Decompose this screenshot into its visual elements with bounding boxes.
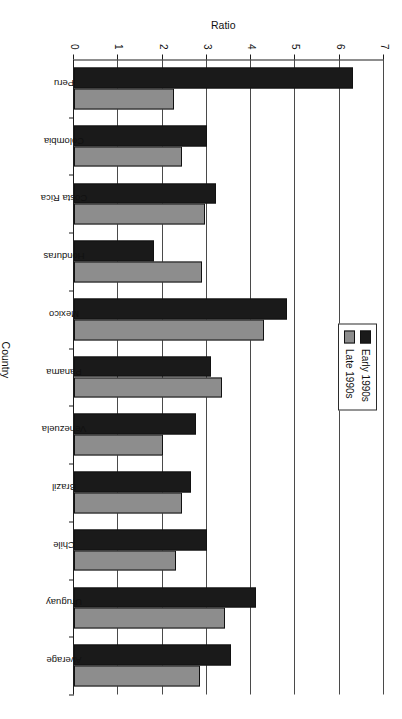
y-axis-tick-label: 4	[246, 19, 256, 49]
gridline	[383, 59, 384, 694]
y-axis-line	[74, 59, 384, 60]
y-axis-tick	[117, 54, 118, 59]
y-axis-tick-label: 3	[202, 19, 212, 49]
legend-item-early: Early 1990s	[360, 330, 371, 402]
y-axis-tick	[250, 54, 251, 59]
gray-swatch-icon	[344, 330, 355, 343]
bar-brazil-early	[74, 471, 191, 492]
x-axis-label-mexico: Mexico	[49, 308, 79, 319]
x-axis-tick	[69, 117, 74, 118]
bar-honduras-late	[74, 261, 202, 282]
x-axis-tick	[69, 348, 74, 349]
x-axis-tick	[69, 463, 74, 464]
black-swatch-icon	[360, 330, 371, 343]
y-axis-tick-label: 7	[379, 19, 389, 49]
x-axis-label-average: Average	[46, 654, 81, 665]
bar-average-early	[74, 644, 231, 665]
y-axis-tick	[206, 54, 207, 59]
bar-chile-late	[74, 550, 176, 571]
x-axis-tick	[69, 521, 74, 522]
gridline	[294, 59, 295, 694]
y-axis-tick	[73, 54, 74, 59]
bar-average-late	[74, 665, 200, 686]
x-axis-label-uruguay: Uruguay	[46, 596, 82, 607]
y-axis-title: Ratio	[211, 18, 236, 30]
bar-brazil-late	[74, 492, 183, 513]
x-axis-label-costa-rica: Costa Rica	[41, 192, 87, 203]
x-axis-tick	[69, 174, 74, 175]
bar-honduras-early	[74, 240, 154, 261]
rotated-figure: Country Ratio 01234567 PeruColombiaCosta…	[0, 0, 402, 719]
x-axis-tick	[69, 694, 74, 695]
x-axis-label-brazil: Brazil	[52, 481, 76, 492]
legend-label-late: Late 1990s	[344, 349, 355, 399]
y-axis-tick	[294, 54, 295, 59]
x-axis-tick	[69, 232, 74, 233]
x-axis-label-peru: Peru	[54, 77, 74, 88]
bar-peru-early	[74, 67, 353, 88]
x-axis-tick	[69, 405, 74, 406]
x-axis-tick	[69, 579, 74, 580]
bar-costa-rica-late	[74, 203, 205, 224]
bar-panama-early	[74, 356, 211, 377]
bar-peru-late	[74, 88, 174, 109]
y-axis-tick-label: 6	[335, 19, 345, 49]
y-axis-tick-label: 0	[69, 19, 79, 49]
legend-label-early: Early 1990s	[360, 349, 371, 402]
y-axis-tick-label: 5	[290, 19, 300, 49]
bar-venezuela-early	[74, 413, 196, 434]
x-axis-label-honduras: Honduras	[43, 250, 84, 261]
x-axis-label-panama: Panama	[46, 366, 81, 377]
bar-chile-early	[74, 529, 207, 550]
bar-panama-late	[74, 377, 222, 398]
bar-uruguay-late	[74, 607, 225, 628]
x-axis-title: Country	[0, 0, 12, 719]
y-axis-tick	[162, 54, 163, 59]
bar-uruguay-early	[74, 587, 256, 608]
bar-colombia-late	[74, 146, 183, 167]
x-axis-label-colombia: Colombia	[44, 135, 84, 146]
y-axis-tick	[339, 54, 340, 59]
bar-mexico-early	[74, 298, 287, 319]
x-axis-tick	[69, 290, 74, 291]
bar-mexico-late	[74, 319, 264, 340]
x-axis-tick	[69, 636, 74, 637]
bar-colombia-early	[74, 125, 207, 146]
legend: Early 1990s Late 1990s	[338, 323, 377, 411]
y-axis-tick-label: 1	[113, 19, 123, 49]
y-axis-tick	[383, 54, 384, 59]
x-axis-label-chile: Chile	[53, 539, 75, 550]
x-axis-label-venezuela: Venezuela	[42, 423, 86, 434]
y-axis-tick-label: 2	[158, 19, 168, 49]
bar-venezuela-late	[74, 434, 163, 455]
legend-item-late: Late 1990s	[344, 330, 355, 402]
bar-costa-rica-early	[74, 183, 216, 204]
chart-canvas: Country Ratio 01234567 PeruColombiaCosta…	[0, 0, 402, 719]
